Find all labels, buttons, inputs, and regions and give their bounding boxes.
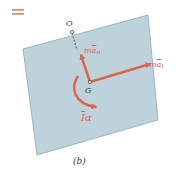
pivot-point-icon [70,30,73,33]
pivot-label: O [66,20,73,28]
panel-label: (b) [73,157,86,166]
tangential-subscript: t [161,62,163,69]
center-of-mass-label: G [85,87,91,95]
normal-mass: m [84,46,92,55]
normal-subscript: n [96,48,100,55]
normal-accel-label: man [84,47,100,55]
tangential-mass: m [149,60,157,69]
rigid-body [23,15,158,155]
moment-alpha: α [85,112,92,123]
equals-icon [12,9,24,15]
moment-label: Iα [81,113,92,123]
center-of-mass-icon [88,80,91,83]
tangential-accel-label: mat [149,61,164,69]
